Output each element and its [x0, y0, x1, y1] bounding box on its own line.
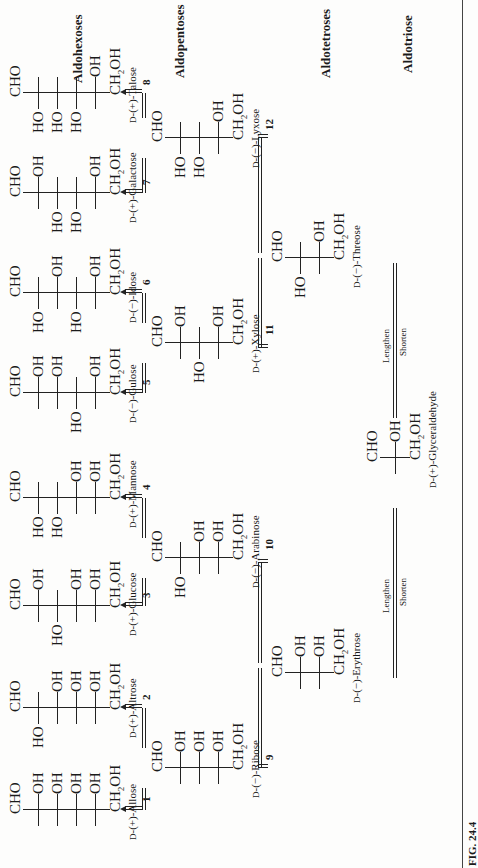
- connector-line: [125, 389, 142, 390]
- oh-text: OH: [107, 348, 123, 370]
- stereocenter-bond: [319, 242, 320, 274]
- hydroxyl-left: HO: [173, 576, 188, 598]
- hydroxyl-right: OH: [173, 305, 188, 327]
- lengthen-label: Lengthen: [381, 579, 391, 613]
- cho-group: CHO: [8, 578, 23, 610]
- stereocenter-bond: [38, 377, 39, 409]
- hydroxyl-right: OH: [192, 520, 207, 542]
- molecule-name: D-(+)-Altrose: [126, 678, 138, 738]
- ch-text: CH: [331, 239, 347, 260]
- stereocenter-bond: [38, 77, 39, 109]
- molecule-number: 8: [140, 80, 152, 86]
- carbon-backbone: [285, 672, 334, 673]
- stereocenter-bond: [76, 590, 77, 622]
- molecule-name: D-(−)-Lyxose: [249, 109, 261, 168]
- connector-line: [258, 767, 268, 768]
- cho-group: CHO: [150, 315, 165, 347]
- hydroxyl-right: OH: [69, 568, 84, 590]
- d-prefix: D: [251, 162, 261, 169]
- arrowhead-icon: [120, 806, 126, 812]
- connector-line: [258, 562, 268, 563]
- connector-line: [393, 508, 394, 678]
- cho-group: CHO: [150, 530, 165, 562]
- stereocenter-bond: [180, 122, 181, 154]
- connector-line: [145, 788, 146, 810]
- carbon-backbone: [23, 92, 110, 93]
- stereocenter-bond: [95, 177, 96, 209]
- hydroxyl-left: HO: [192, 156, 207, 178]
- subscript-2: 2: [116, 475, 126, 480]
- molecule-number: 6: [140, 280, 152, 286]
- name-text: -(+)-Mannose: [126, 460, 138, 521]
- connector-line: [258, 258, 259, 348]
- stereocenter-bond: [76, 277, 77, 309]
- hydroxyl-left: HO: [293, 276, 308, 298]
- stereocenter-bond: [76, 692, 77, 724]
- subscript-2: 2: [116, 170, 126, 175]
- stereocenter-bond: [300, 242, 301, 274]
- hydroxyl-right: OH: [88, 155, 103, 177]
- connector-line: [145, 363, 146, 393]
- oh-text: OH: [107, 248, 123, 270]
- connector-line: [125, 704, 142, 705]
- stereocenter-bond: [95, 794, 96, 826]
- name-text: -(−)-Gulose: [126, 364, 138, 416]
- stereocenter-bond: [199, 542, 200, 574]
- hydroxyl-right: OH: [211, 100, 226, 122]
- carbon-backbone: [23, 292, 110, 293]
- stereocenter-bond: [76, 794, 77, 826]
- connector-line: [125, 494, 142, 495]
- d-prefix: D: [352, 282, 362, 289]
- connector-line: [142, 93, 143, 118]
- connector-line: [396, 263, 397, 418]
- molecule-name: D-(+)-Allose: [126, 784, 138, 840]
- oh-text: OH: [107, 148, 123, 170]
- subscript-2: 2: [239, 115, 249, 120]
- subscript-2: 2: [239, 745, 249, 750]
- hydroxyl-right: OH: [211, 305, 226, 327]
- hydroxyl-right: OH: [50, 670, 65, 692]
- hydroxyl-right: OH: [50, 255, 65, 277]
- connector-line: [125, 92, 142, 93]
- stereocenter-bond: [300, 657, 301, 689]
- ch-text: CH: [331, 654, 347, 675]
- oh-text: OH: [230, 513, 246, 535]
- connector-line: [261, 563, 262, 663]
- oh-text: OH: [107, 453, 123, 475]
- subscript-2: 2: [239, 535, 249, 540]
- hydroxyl-left: HO: [69, 211, 84, 233]
- subscript-2: 2: [116, 370, 126, 375]
- hydroxyl-right: OH: [173, 730, 188, 752]
- hydroxyl-right: OH: [69, 460, 84, 482]
- name-text: -(−)-Erythrose: [350, 633, 362, 697]
- stereocenter-bond: [38, 692, 39, 724]
- aldose-family-tree-diagram: CHOOHOHOHOHCH2OHD-(+)-Allose1CHOHOOHOHOH…: [0, 0, 478, 868]
- stereocenter-bond: [180, 752, 181, 784]
- connector-line: [145, 708, 146, 748]
- name-text: -(−)-Idose: [126, 272, 138, 317]
- connector-line: [396, 508, 397, 678]
- carbon-backbone: [23, 707, 110, 708]
- connector-line: [142, 788, 143, 810]
- stereocenter-bond: [180, 542, 181, 574]
- name-text: -(+)-Xylose: [249, 314, 261, 366]
- molecule-number: 10: [263, 539, 275, 550]
- oh-text: OH: [107, 765, 123, 787]
- stereocenter-bond: [38, 177, 39, 209]
- hydroxyl-left: HO: [31, 111, 46, 133]
- arrowhead-icon: [120, 602, 126, 608]
- hydroxyl-left: HO: [31, 726, 46, 748]
- hydroxyl-left: HO: [192, 361, 207, 383]
- stereocenter-bond: [180, 327, 181, 359]
- ch-text: CH: [230, 539, 246, 560]
- molecule-number: 4: [140, 485, 152, 491]
- connector-line: [258, 344, 268, 345]
- arrowhead-icon: [120, 289, 126, 295]
- oh-text: OH: [230, 298, 246, 320]
- arrowhead-icon: [120, 494, 126, 500]
- stereocenter-bond: [57, 377, 58, 409]
- connector-line: [125, 392, 142, 393]
- carbon-backbone: [23, 192, 110, 193]
- series-label-aldopentoses: Aldopentoses: [172, 4, 188, 78]
- d-prefix: D: [251, 582, 261, 589]
